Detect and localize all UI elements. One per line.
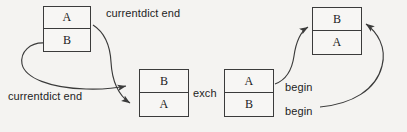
stack-cell-bottom: A <box>313 31 361 54</box>
stack-cell-top: A <box>225 70 273 93</box>
label-begin-lower: begin <box>285 105 312 117</box>
arrow-begin-a-path <box>275 27 308 84</box>
label-currentdict-end-bottom: currentdict end <box>8 90 82 102</box>
stack-box-right-lower: A B <box>224 69 274 117</box>
diagram-canvas: A B B A A B B A currentdict end currentd… <box>0 0 407 132</box>
stack-cell-top: B <box>140 70 188 93</box>
label-exch: exch <box>193 87 217 99</box>
stack-box-middle: B A <box>139 69 189 117</box>
stack-cell-top: A <box>44 7 90 29</box>
stack-cell-bottom: A <box>140 93 188 116</box>
stack-cell-top: B <box>313 8 361 31</box>
label-begin-upper: begin <box>285 81 312 93</box>
stack-cell-bottom: B <box>225 93 273 116</box>
stack-cell-bottom: B <box>44 29 90 51</box>
stack-box-top-right: B A <box>312 7 362 55</box>
label-currentdict-end-top: currentdict end <box>106 7 180 19</box>
stack-box-top-left: A B <box>43 6 91 52</box>
arrow-currentdict-end-a-path <box>93 25 130 103</box>
